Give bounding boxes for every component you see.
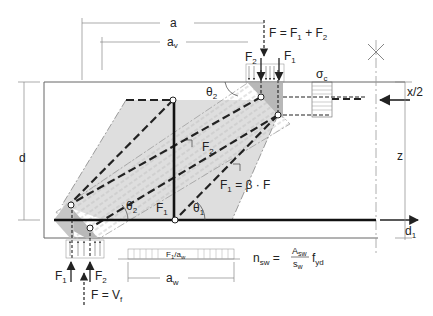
dim-aw-label: aw bbox=[166, 271, 179, 287]
svg-text:sw: sw bbox=[293, 259, 304, 270]
sigma-c-label: σc bbox=[316, 67, 327, 83]
load-top-label: F = F1 + F2 bbox=[269, 26, 328, 42]
symmetry-axis bbox=[368, 40, 384, 255]
reaction-F2-label: F2 bbox=[95, 269, 107, 285]
theta2-top-label: θ2 bbox=[206, 85, 218, 101]
d1-label: d1 bbox=[405, 224, 417, 240]
stirrup-load-label: F1/aw bbox=[166, 250, 186, 260]
svg-text:Asw: Asw bbox=[292, 246, 308, 257]
dim-av-label: av bbox=[167, 35, 178, 50]
dim-a-label: a bbox=[170, 16, 177, 30]
top-F1-label: F1 bbox=[284, 49, 296, 65]
d-label: d bbox=[19, 151, 26, 165]
top-F2-label: F2 bbox=[245, 50, 257, 66]
nsw-formula: nsw = Asw sw fyd bbox=[253, 246, 324, 270]
reaction-total-label: F = Vf bbox=[91, 288, 123, 304]
concrete-stress-block bbox=[283, 82, 365, 117]
strut-and-tie-diagram: a av F = F1 + F2 F2 F1 σc x/2 θ2 F2 d z … bbox=[0, 0, 433, 316]
x-half-label: x/2 bbox=[407, 85, 423, 99]
z-label: z bbox=[397, 149, 403, 163]
reaction-F1-label: F1 bbox=[55, 269, 67, 285]
svg-text:fyd: fyd bbox=[312, 251, 324, 267]
svg-text:nsw =: nsw = bbox=[253, 251, 280, 267]
